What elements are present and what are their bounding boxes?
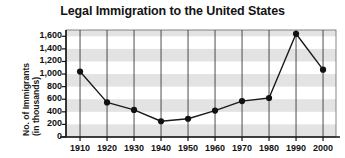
x-axis-tick-labels: 1910192019301940195019601970198019902000 — [0, 0, 345, 158]
immigration-line-chart: Legal Immigration to the United States N… — [0, 0, 345, 158]
x-tick-label: 2000 — [303, 143, 343, 153]
